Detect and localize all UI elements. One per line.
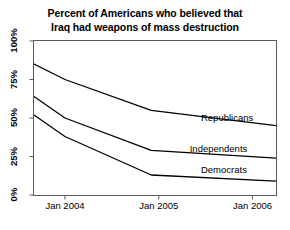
chart-title: Percent of Americans who believed that I…: [0, 6, 290, 34]
x-tick-label: Jan 2004: [30, 200, 100, 211]
y-tick-label: 0%: [8, 178, 19, 212]
x-tick-label: Jan 2006: [218, 200, 288, 211]
y-tick-label: 50%: [8, 101, 19, 135]
series-label-republicans: Republicans: [201, 112, 253, 123]
chart-title-line-2: Iraq had weapons of mass destruction: [0, 20, 290, 34]
chart-title-line-1: Percent of Americans who believed that: [0, 6, 290, 20]
chart-figure: Percent of Americans who believed that I…: [0, 0, 290, 230]
y-tick-label: 75%: [8, 62, 19, 96]
x-tick-label: Jan 2005: [124, 200, 194, 211]
y-tick-label: 25%: [8, 139, 19, 173]
series-label-democrats: Democrats: [201, 164, 247, 175]
series-label-independents: Independents: [190, 143, 248, 154]
y-tick-label: 100%: [8, 24, 19, 58]
